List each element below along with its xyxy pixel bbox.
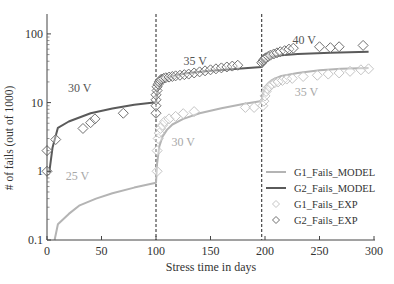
x-tick-label: 150 — [202, 244, 220, 258]
legend-item: G2_Fails_MODEL — [266, 183, 375, 194]
legend-label: G2_Fails_MODEL — [294, 183, 375, 194]
legend-item: G1_Fails_EXP — [273, 199, 358, 210]
legend-diamond-icon — [273, 217, 280, 224]
voltage-label: 35 V — [295, 85, 319, 99]
x-tick-label: 50 — [96, 244, 108, 258]
voltage-label: 35 V — [184, 54, 208, 68]
chart: 25 V30 V30 V35 V35 V40 V 050100150200250… — [0, 0, 394, 284]
legend-item: G1_Fails_MODEL — [266, 167, 375, 178]
x-tick-label: 200 — [256, 244, 274, 258]
data-point-marker — [364, 64, 374, 74]
data-point-marker — [249, 102, 259, 112]
voltage-label: 30 V — [172, 135, 196, 149]
data-point-marker — [325, 43, 335, 53]
x-ticks: 050100150200250300 — [44, 236, 383, 258]
data-point-marker — [51, 135, 61, 145]
y-tick-label: 0.1 — [28, 233, 43, 247]
data-point-marker — [152, 166, 162, 176]
data-point-marker — [334, 42, 344, 52]
data-point-marker — [358, 40, 368, 50]
legend-diamond-icon — [273, 201, 280, 208]
legend: G1_Fails_MODELG2_Fails_MODELG1_Fails_EXP… — [266, 167, 375, 226]
phase-boundary-lines — [156, 14, 262, 240]
data-point-marker — [152, 146, 162, 156]
data-point-marker — [118, 108, 128, 118]
data-point-marker — [189, 107, 199, 117]
x-tick-label: 0 — [44, 244, 50, 258]
x-tick-label: 300 — [365, 244, 383, 258]
x-tick-label: 250 — [311, 244, 329, 258]
y-tick-label: 1 — [37, 164, 43, 178]
voltage-label: 40 V — [293, 33, 317, 47]
x-tick-label: 100 — [147, 244, 165, 258]
y-tick-label: 100 — [25, 27, 43, 41]
y-tick-label: 10 — [31, 96, 43, 110]
series-g1-fails-exp — [152, 64, 373, 176]
legend-label: G1_Fails_EXP — [294, 199, 358, 210]
legend-label: G2_Fails_EXP — [294, 215, 358, 226]
data-point-marker — [315, 42, 325, 52]
y-axis-label: # of fails (out of 1000) — [3, 86, 16, 191]
voltage-label: 30 V — [68, 81, 92, 95]
legend-label: G1_Fails_MODEL — [294, 167, 375, 178]
series-layer — [42, 40, 374, 240]
voltage-label: 25 V — [66, 169, 90, 183]
legend-item: G2_Fails_EXP — [273, 215, 358, 226]
data-point-marker — [78, 123, 88, 133]
x-axis-label: Stress time in days — [166, 260, 257, 274]
